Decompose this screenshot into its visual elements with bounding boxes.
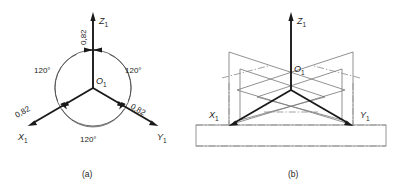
panel-a-angle-right: 120° <box>125 66 142 75</box>
panel-b-axis-x-label: X1 <box>208 110 219 122</box>
set-square-right-outer <box>237 52 353 125</box>
figure-svg: Z1 X1 Y1 O1 0,82 0,82 0,82 120° 120° 120… <box>0 0 401 193</box>
panel-a-caption: (a) <box>82 169 93 179</box>
angle-arc-bottom <box>62 109 124 127</box>
angle-arc-left <box>55 54 77 101</box>
panel-a: Z1 X1 Y1 O1 0,82 0,82 0,82 120° 120° 120… <box>14 12 168 179</box>
panel-b-axis-y-label: Y1 <box>360 110 370 122</box>
panel-b-axis-z1-arrowhead <box>288 12 293 21</box>
axis-z1-arrowhead <box>90 12 95 21</box>
panel-b-caption: (b) <box>288 169 299 179</box>
drawing-board <box>196 125 386 146</box>
panel-a-origin-label: O1 <box>96 76 107 88</box>
panel-b-axis-z-label: Z1 <box>296 16 307 28</box>
panel-a-angle-bottom: 120° <box>80 135 97 144</box>
panel-a-dim-x: 0,82 <box>14 104 32 120</box>
panel-b: Z1 X1 Y1 O1 (b) <box>196 12 386 179</box>
panel-a-angle-left: 120° <box>34 66 51 75</box>
panel-a-dim-z: 0,82 <box>79 29 88 45</box>
figure-root: Z1 X1 Y1 O1 0,82 0,82 0,82 120° 120° 120… <box>0 0 401 193</box>
panel-a-axis-x-label: X1 <box>17 132 28 144</box>
set-square-left-outer <box>229 52 345 125</box>
panel-a-axis-y-label: Y1 <box>157 132 167 144</box>
angle-arc-right <box>109 54 131 101</box>
panel-b-origin-label: O1 <box>294 64 305 76</box>
panel-a-axis-z-label: Z1 <box>98 16 109 28</box>
